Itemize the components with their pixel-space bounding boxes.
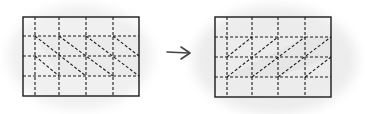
right-arrow-icon — [167, 47, 190, 59]
transformation-diagram — [0, 0, 365, 114]
